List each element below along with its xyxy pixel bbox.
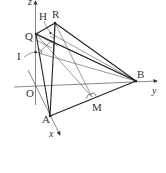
segment-HB [50, 33, 136, 81]
segment-IB [35, 52, 136, 81]
point-R [54, 22, 56, 24]
point-label-B: B [137, 68, 144, 80]
point-label-M: M [92, 101, 102, 113]
y-axis-label: y [151, 85, 157, 96]
point-I [34, 51, 36, 53]
arc-I [24, 52, 36, 57]
edge-QA [36, 34, 50, 116]
point-B [135, 80, 137, 82]
z-axis-label: z [27, 0, 32, 7]
point-Q [35, 33, 37, 35]
point-label-Q: Q [25, 30, 33, 42]
geometry-diagram: z y x O H R Q I B A M [0, 0, 166, 173]
origin-label: O [26, 87, 34, 99]
point-label-R: R [52, 8, 60, 20]
edge-RB [55, 23, 136, 81]
x-axis-label: x [48, 128, 54, 139]
point-label-I: I [17, 50, 21, 62]
point-label-H: H [39, 10, 47, 22]
segment-RM [55, 23, 92, 97]
edge-QB [36, 34, 136, 81]
point-label-A: A [42, 113, 50, 125]
point-H [50, 32, 52, 34]
